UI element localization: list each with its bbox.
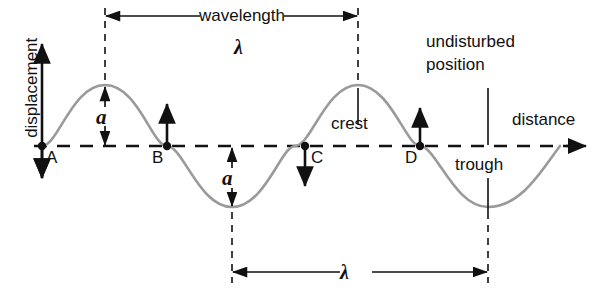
point-label-d: D — [405, 148, 417, 168]
x-axis-label: distance — [512, 110, 575, 130]
wave-diagram: displacement distance wavelength λ λ a a… — [0, 0, 601, 297]
amplitude-label-crest: a — [96, 105, 107, 129]
point-label-b: B — [152, 148, 163, 168]
undisturbed-position-label-line2: position — [426, 55, 485, 75]
point-label-c: C — [311, 148, 323, 168]
trough-label: trough — [455, 155, 503, 175]
amplitude-label-trough: a — [222, 166, 233, 190]
point-label-a: A — [46, 148, 57, 168]
point-marker-b — [163, 142, 171, 150]
wavelength-label: wavelength — [199, 6, 285, 26]
point-marker-c — [301, 142, 309, 150]
undisturbed-position-label-line1: undisturbed — [426, 32, 515, 52]
wavelength-dimension-bottom — [232, 212, 488, 283]
lambda-label-bottom: λ — [340, 261, 349, 284]
y-axis-label: displacement — [22, 28, 42, 148]
lambda-label-top: λ — [234, 36, 243, 59]
crest-label: crest — [331, 114, 368, 134]
